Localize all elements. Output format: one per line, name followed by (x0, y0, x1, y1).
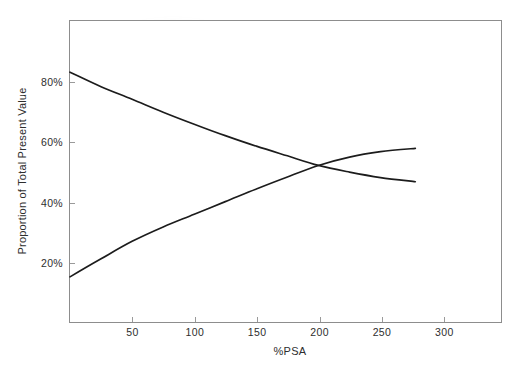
y-tick-mark (70, 263, 75, 264)
plot-frame: 5010015020025030020%40%60%80% (69, 20, 502, 323)
x-tick-mark (382, 317, 383, 322)
x-tick-label: 50 (126, 326, 138, 338)
x-tick-label: 200 (310, 326, 329, 338)
x-tick-mark (132, 317, 133, 322)
curves-svg (70, 21, 501, 322)
x-tick-mark (257, 317, 258, 322)
y-axis-title: Proportion of Total Present Value (16, 87, 28, 254)
x-tick-mark (195, 317, 196, 322)
x-axis-title: %PSA (274, 345, 307, 357)
y-tick-mark (70, 82, 75, 83)
line-chart: Proportion of Total Present Value 501001… (0, 0, 521, 380)
y-tick-mark (70, 203, 75, 204)
falling-curve (70, 72, 415, 182)
y-tick-label: 80% (41, 76, 63, 88)
x-tick-label: 250 (373, 326, 392, 338)
x-tick-label: 300 (435, 326, 454, 338)
x-tick-label: 150 (248, 326, 267, 338)
rising-curve (70, 148, 415, 277)
y-tick-label: 60% (41, 136, 63, 148)
x-tick-label: 100 (185, 326, 204, 338)
y-tick-mark (70, 142, 75, 143)
y-tick-label: 40% (41, 197, 63, 209)
x-tick-mark (444, 317, 445, 322)
x-tick-mark (320, 317, 321, 322)
y-tick-label: 20% (41, 257, 63, 269)
